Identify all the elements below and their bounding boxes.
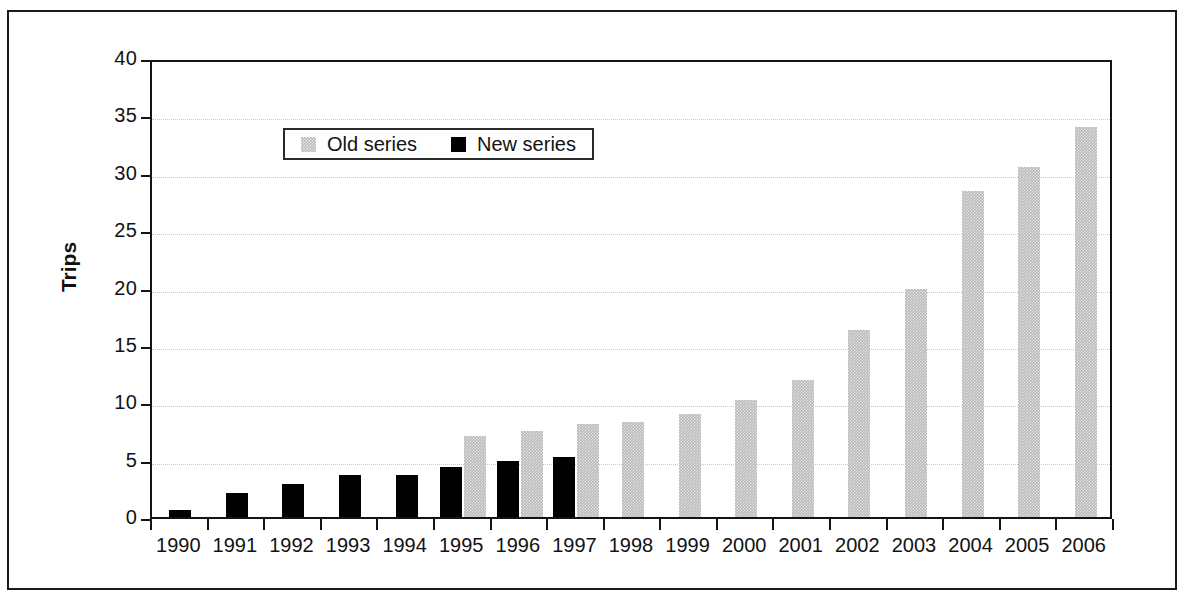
bar-1995-old-series: [464, 436, 486, 517]
x-axis-tick: [376, 519, 378, 530]
x-axis-tick: [772, 519, 774, 530]
x-axis-label: 2001: [772, 534, 829, 557]
y-axis-tick: [141, 117, 150, 119]
bar-1990-new-series: [169, 510, 191, 517]
y-axis-tick: [141, 290, 150, 292]
x-axis-tick: [150, 519, 152, 530]
bar-1997-old-series: [577, 424, 599, 517]
x-axis-label: 1992: [263, 534, 320, 557]
bar-1996-new-series: [497, 461, 519, 517]
x-axis-tick: [999, 519, 1001, 530]
x-axis-label: 2004: [942, 534, 999, 557]
bar-1994-new-series: [396, 475, 418, 517]
x-axis-label: 1999: [659, 534, 716, 557]
y-axis-tick: [141, 462, 150, 464]
x-axis-label: 2006: [1055, 534, 1112, 557]
bar-1992-new-series: [282, 484, 304, 517]
y-axis-tick: [141, 232, 150, 234]
y-axis-label: 35: [95, 104, 137, 127]
y-axis-label: 20: [95, 277, 137, 300]
x-axis-label: 2002: [829, 534, 886, 557]
chart-figure: Trips 0510152025303540 19901991199219931…: [0, 0, 1188, 611]
x-axis-tick: [490, 519, 492, 530]
x-axis-label: 1990: [150, 534, 207, 557]
x-axis-label: 1998: [603, 534, 660, 557]
y-axis-label: 15: [95, 334, 137, 357]
y-axis-label: 40: [95, 47, 137, 70]
x-axis-label: 1997: [546, 534, 603, 557]
x-axis-label: 1993: [320, 534, 377, 557]
y-axis-label: 0: [95, 506, 137, 529]
x-axis-tick: [829, 519, 831, 530]
x-axis-tick: [1112, 519, 1114, 530]
x-axis-tick: [942, 519, 944, 530]
legend-entry-old-series: Old series: [301, 133, 417, 156]
bar-1993-new-series: [339, 475, 361, 517]
legend-entry-new-series: New series: [451, 133, 576, 156]
x-axis-label: 2005: [999, 534, 1056, 557]
y-axis-label: 5: [95, 449, 137, 472]
bar-1998-old-series: [622, 422, 644, 517]
x-axis-label: 1991: [207, 534, 264, 557]
legend-swatch-new-icon: [451, 137, 466, 152]
x-axis-tick: [320, 519, 322, 530]
bar-2001-old-series: [792, 380, 814, 517]
x-axis-tick: [207, 519, 209, 530]
x-axis-label: 1996: [490, 534, 547, 557]
chart-legend: Old seriesNew series: [283, 128, 594, 160]
bar-1997-new-series: [553, 457, 575, 517]
legend-label: New series: [477, 133, 576, 156]
x-axis-tick: [1055, 519, 1057, 530]
y-axis-tick: [141, 175, 150, 177]
x-axis-tick: [433, 519, 435, 530]
bar-2003-old-series: [905, 289, 927, 517]
x-axis-tick: [659, 519, 661, 530]
y-axis-tick: [141, 404, 150, 406]
y-axis-tick: [141, 519, 150, 521]
bar-1991-new-series: [226, 493, 248, 517]
bar-1995-new-series: [440, 467, 462, 517]
x-axis-label: 1994: [376, 534, 433, 557]
legend-label: Old series: [327, 133, 417, 156]
bar-1999-old-series: [679, 414, 701, 517]
x-axis-label: 1995: [433, 534, 490, 557]
y-axis-label: 30: [95, 162, 137, 185]
x-axis-tick: [886, 519, 888, 530]
gridline: [152, 177, 1110, 178]
x-axis-label: 2003: [886, 534, 943, 557]
y-axis-label: 25: [95, 219, 137, 242]
y-axis-tick: [141, 347, 150, 349]
bar-2005-old-series: [1018, 167, 1040, 517]
bar-2002-old-series: [848, 330, 870, 517]
x-axis-tick: [263, 519, 265, 530]
y-axis-title: Trips: [57, 242, 81, 292]
bar-1996-old-series: [521, 431, 543, 517]
x-axis-tick: [716, 519, 718, 530]
bar-2004-old-series: [962, 191, 984, 517]
gridline: [152, 119, 1110, 120]
x-axis-tick: [546, 519, 548, 530]
y-axis-tick: [141, 60, 150, 62]
bar-2006-old-series: [1075, 127, 1097, 517]
legend-swatch-old-icon: [301, 137, 316, 152]
x-axis-label: 2000: [716, 534, 773, 557]
y-axis-label: 10: [95, 391, 137, 414]
x-axis-tick: [603, 519, 605, 530]
bar-2000-old-series: [735, 400, 757, 517]
